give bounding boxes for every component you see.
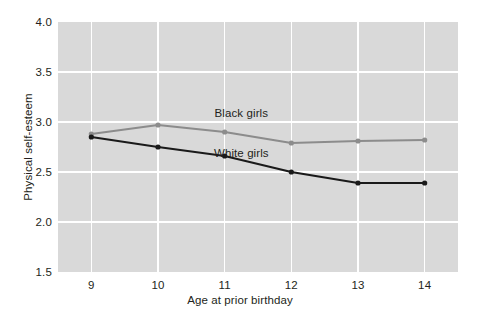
x-axis-tick-label: 10 — [151, 279, 164, 291]
series-line — [91, 125, 424, 143]
y-axis-tick-label: 1.5 — [4, 266, 52, 278]
data-point-marker — [89, 134, 94, 139]
x-axis-tick-label: 12 — [285, 279, 298, 291]
chart-figure: Physical self-esteem 4.03.53.02.52.01.5 … — [0, 0, 480, 318]
y-axis-tick-label: 4.0 — [4, 16, 52, 28]
plot-area: Black girlsWhite girls — [58, 22, 458, 272]
x-axis-title: Age at prior birthday — [0, 294, 480, 306]
y-axis-tick-label: 3.5 — [4, 66, 52, 78]
y-axis-tick-label: 2.5 — [4, 166, 52, 178]
data-point-marker — [422, 180, 427, 185]
data-point-marker — [422, 137, 427, 142]
series-line — [91, 137, 424, 183]
data-point-marker — [355, 138, 360, 143]
y-axis-tick-label: 3.0 — [4, 116, 52, 128]
x-axis-tick-label: 13 — [351, 279, 364, 291]
y-axis-tick-labels: 4.03.53.02.52.01.5 — [0, 22, 52, 272]
data-point-marker — [289, 140, 294, 145]
series-label-white-girls: White girls — [214, 147, 269, 159]
x-axis-tick-label: 11 — [218, 279, 230, 291]
x-axis-tick-label: 14 — [418, 279, 431, 291]
x-axis-tick-labels: 91011121314 — [58, 272, 458, 296]
y-axis-tick-label: 2.0 — [4, 216, 52, 228]
series-label-black-girls: Black girls — [215, 107, 269, 119]
data-point-marker — [155, 122, 160, 127]
data-point-marker — [222, 129, 227, 134]
data-point-marker — [155, 144, 160, 149]
x-axis-tick-label: 9 — [88, 279, 95, 291]
data-point-marker — [355, 180, 360, 185]
data-point-marker — [289, 169, 294, 174]
